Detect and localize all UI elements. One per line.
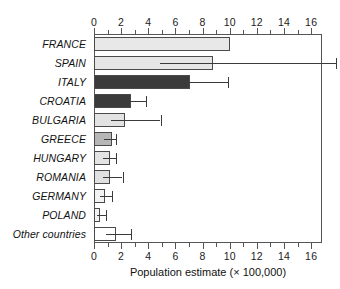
axis-tick-minor — [189, 243, 190, 247]
error-bar-cap — [146, 96, 147, 107]
axis-tick-major — [230, 243, 231, 249]
axis-tick-minor — [135, 243, 136, 247]
axis-tick-minor — [243, 243, 244, 247]
axis-tick-major — [121, 243, 122, 249]
category-label: ITALY — [58, 76, 86, 88]
category-label: SPAIN — [55, 57, 86, 69]
bars-layer — [94, 34, 322, 243]
category-label: Other countries — [13, 228, 86, 240]
axis-tick-label: 4 — [145, 250, 151, 262]
axis-tick-major — [257, 243, 258, 249]
axis-tick-label: 14 — [278, 250, 290, 262]
axis-tick-major — [148, 243, 149, 249]
error-bar-cap — [336, 58, 337, 69]
axis-tick-label: 4 — [145, 16, 151, 28]
category-label: GERMANY — [32, 190, 86, 202]
error-bar-cap — [228, 77, 229, 88]
population-bar-chart: 0246810121416 0246810121416 FRANCESPAINI… — [0, 0, 340, 289]
error-bar — [160, 63, 336, 64]
category-label: POLAND — [42, 209, 86, 221]
axis-tick-minor — [162, 243, 163, 247]
category-label: GREECE — [41, 133, 86, 145]
error-bar — [111, 120, 160, 121]
error-bar — [104, 139, 116, 140]
error-bar-cap — [112, 191, 113, 202]
axis-tick-label: 0 — [91, 250, 97, 262]
error-bar — [147, 82, 228, 83]
error-bar-cap — [106, 210, 107, 221]
axis-tick-label: 0 — [91, 16, 97, 28]
axis-tick-label: 6 — [172, 250, 178, 262]
axis-tick-minor — [298, 243, 299, 247]
axis-tick-major — [311, 243, 312, 249]
category-label: CROATIA — [39, 95, 86, 107]
axis-tick-label: 10 — [224, 250, 236, 262]
error-bar — [103, 158, 116, 159]
error-bar-cap — [116, 153, 117, 164]
axis-tick-label: 2 — [118, 250, 124, 262]
error-bar-cap — [131, 229, 132, 240]
axis-tick-major — [284, 243, 285, 249]
axis-tick-label: 16 — [305, 16, 317, 28]
error-bar-cap — [116, 134, 117, 145]
axis-tick-label: 2 — [118, 16, 124, 28]
category-label: ROMANIA — [36, 171, 86, 183]
category-label: BULGARIA — [32, 114, 86, 126]
axis-tick-label: 10 — [224, 16, 236, 28]
axis-tick-major — [203, 243, 204, 249]
axis-tick-label: 12 — [251, 16, 263, 28]
error-bar — [114, 101, 145, 102]
category-axis-labels: FRANCESPAINITALYCROATIABULGARIAGREECEHUN… — [0, 34, 90, 243]
error-bar — [106, 234, 131, 235]
category-label: FRANCE — [42, 38, 86, 50]
axis-tick-label: 14 — [278, 16, 290, 28]
error-bar — [97, 215, 106, 216]
axis-tick-label: 16 — [305, 250, 317, 262]
error-bar-cap — [123, 172, 124, 183]
axis-tick-major — [175, 243, 176, 249]
axis-tick-label: 6 — [172, 16, 178, 28]
axis-tick-minor — [108, 243, 109, 247]
axis-tick-label: 8 — [200, 16, 206, 28]
category-label: HUNGARY — [33, 152, 86, 164]
error-bar-cap — [161, 115, 162, 126]
error-bar — [100, 196, 112, 197]
axis-tick-minor — [270, 243, 271, 247]
bar — [94, 37, 230, 51]
axis-tick-minor — [216, 243, 217, 247]
axis-tick-major — [94, 243, 95, 249]
axis-tick-label: 12 — [251, 250, 263, 262]
x-axis-title: Population estimate (× 100,000) — [94, 266, 322, 278]
error-bar — [103, 177, 123, 178]
axis-tick-label: 8 — [200, 250, 206, 262]
